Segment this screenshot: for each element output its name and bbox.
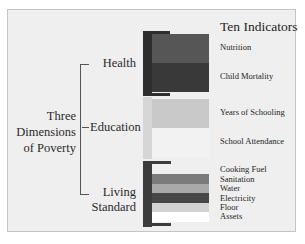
dimension-label-living-standard: Living Standard <box>90 185 136 215</box>
dimension-label-education: Education <box>90 120 136 135</box>
indicator-bar-school-attendance <box>152 128 209 157</box>
bracket-tick-education <box>82 127 89 128</box>
dimension-label-line: Standard <box>90 200 136 215</box>
indicator-bar-electricity <box>152 193 209 203</box>
health-bracket-spine <box>143 31 152 96</box>
indicator-bar-cooking-fuel <box>152 164 209 174</box>
dimension-bracket <box>80 64 81 194</box>
main-label-line: Three <box>14 108 76 124</box>
indicator-label-child-mortality: Child Mortality <box>220 72 273 82</box>
main-label-line: of Poverty <box>14 140 76 156</box>
indicator-bar-assets <box>152 212 209 222</box>
bracket-tick-living <box>80 194 89 195</box>
main-label: Three Dimensions of Poverty <box>14 108 76 156</box>
main-label-line: Dimensions <box>14 124 76 140</box>
dimension-label-health: Health <box>90 56 136 71</box>
living-bracket-spine <box>143 161 152 227</box>
living-bracket-bottom <box>143 223 171 226</box>
indicator-bar-floor <box>152 203 209 212</box>
indicator-label-nutrition: Nutrition <box>220 43 251 53</box>
indicator-bar-years-of-schooling <box>152 99 209 128</box>
indicators-title: Ten Indicators <box>220 19 297 35</box>
indicator-bar-child-mortality <box>152 63 209 92</box>
indicator-label-school-attendance: School Attendance <box>220 137 284 147</box>
indicator-label-years-of-schooling: Years of Schooling <box>220 108 285 118</box>
indicator-bar-nutrition <box>152 34 209 63</box>
indicator-label-assets: Assets <box>220 212 242 222</box>
education-bracket-spine <box>143 97 152 159</box>
indicator-bar-water <box>152 184 209 193</box>
health-bracket-bottom <box>143 93 170 96</box>
dimension-label-line: Living <box>90 185 136 200</box>
indicator-bar-sanitation <box>152 174 209 184</box>
bracket-tick-health <box>80 64 89 65</box>
